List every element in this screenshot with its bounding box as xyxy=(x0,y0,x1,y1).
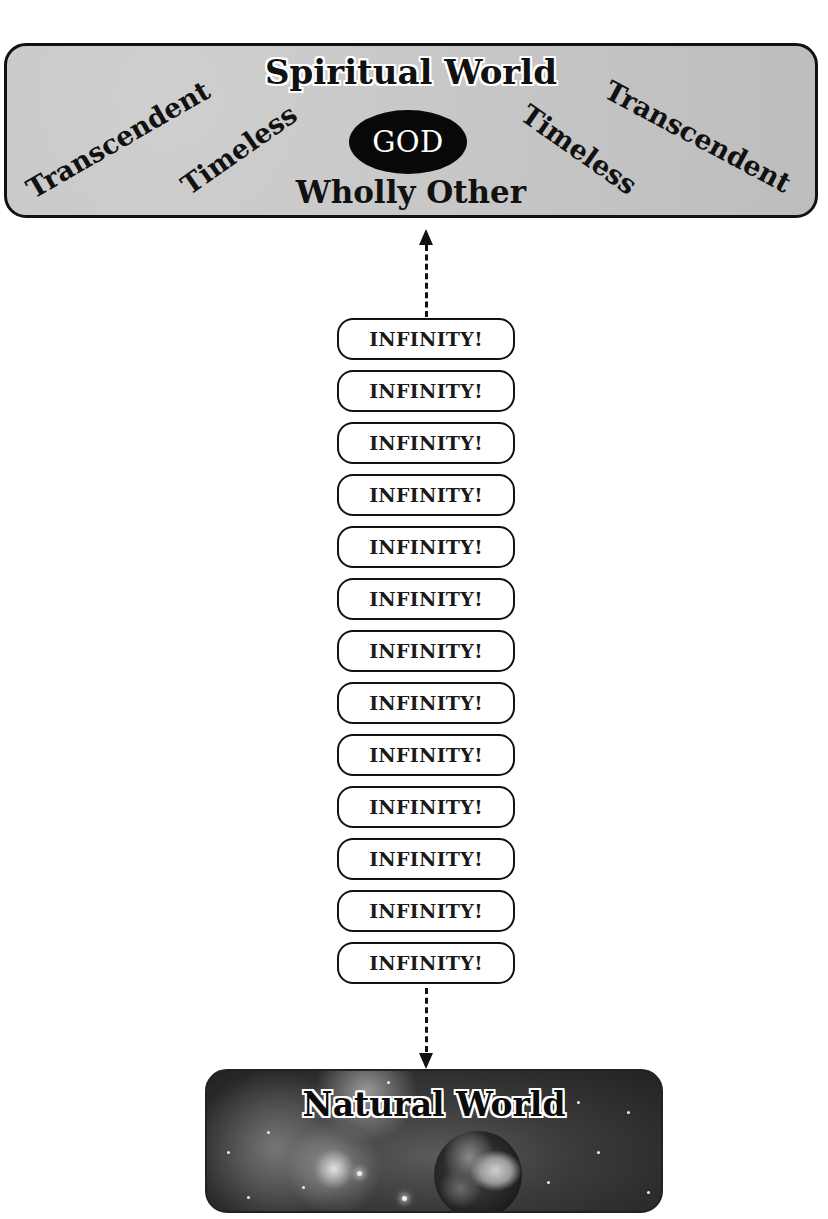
infinity-pill: INFINITY! xyxy=(337,370,515,412)
star-icon xyxy=(267,1131,270,1134)
spiritual-world-box: Spiritual World Transcendent Timeless GO… xyxy=(4,43,818,218)
infinity-pill: INFINITY! xyxy=(337,630,515,672)
star-icon xyxy=(402,1196,407,1201)
arrow-down-icon xyxy=(419,1053,433,1069)
star-icon xyxy=(357,1171,362,1176)
infinity-pill: INFINITY! xyxy=(337,682,515,724)
star-icon xyxy=(597,1151,600,1154)
star-icon xyxy=(387,1081,390,1084)
natural-world-title: Natural World xyxy=(207,1085,661,1124)
infinity-pill: INFINITY! xyxy=(337,838,515,880)
infinity-pill: INFINITY! xyxy=(337,526,515,568)
infinity-pill: INFINITY! xyxy=(337,734,515,776)
god-oval: GOD xyxy=(349,110,467,174)
natural-world-box: Natural World xyxy=(205,1069,663,1213)
infinity-pill: INFINITY! xyxy=(337,422,515,464)
arrow-up-icon xyxy=(419,229,433,245)
wholly-other-label: Wholly Other xyxy=(7,174,815,210)
star-icon xyxy=(227,1151,230,1154)
infinity-pill: INFINITY! xyxy=(337,318,515,360)
infinity-stack: INFINITY! INFINITY! INFINITY! INFINITY! … xyxy=(337,318,515,994)
infinity-pill: INFINITY! xyxy=(337,890,515,932)
god-label: GOD xyxy=(372,125,444,159)
dashed-connector-top xyxy=(425,245,428,317)
star-icon xyxy=(247,1196,250,1199)
star-icon xyxy=(302,1186,305,1189)
infinity-pill: INFINITY! xyxy=(337,578,515,620)
star-icon xyxy=(547,1181,550,1184)
spiritual-world-title: Spiritual World xyxy=(7,52,815,92)
infinity-pill: INFINITY! xyxy=(337,942,515,984)
earth-icon xyxy=(434,1131,522,1213)
star-icon xyxy=(647,1191,650,1194)
dashed-connector-bottom xyxy=(425,988,428,1052)
infinity-pill: INFINITY! xyxy=(337,786,515,828)
infinity-pill: INFINITY! xyxy=(337,474,515,516)
